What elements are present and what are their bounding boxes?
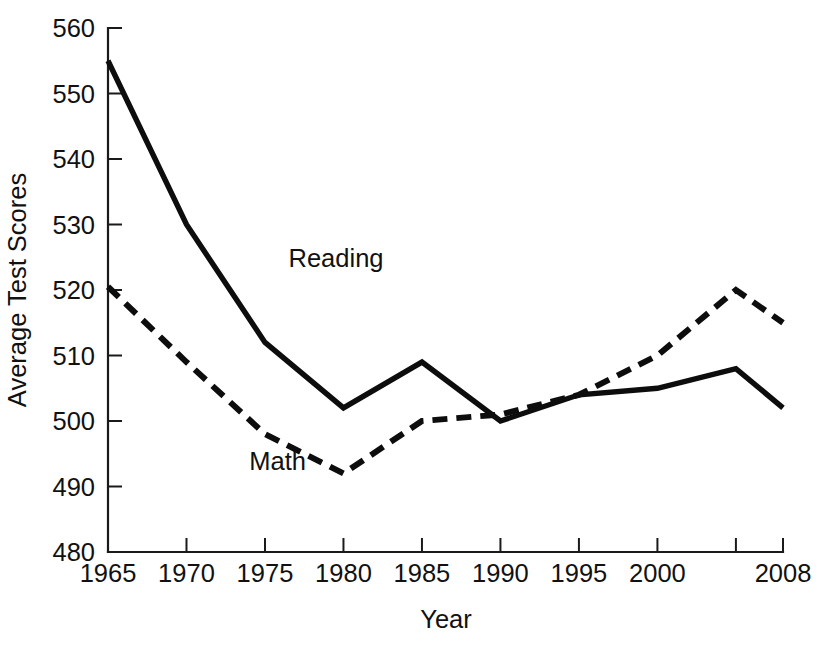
series-annotations: ReadingMath	[249, 244, 383, 475]
y-axis-tick-labels: 480490500510520530540550560	[52, 14, 95, 566]
x-tick-label: 1990	[472, 559, 529, 587]
x-axis-ticks	[108, 538, 783, 552]
x-axis-title: Year	[420, 605, 472, 633]
line-chart: 480490500510520530540550560 Average Test…	[0, 0, 822, 645]
x-axis-tick-labels: 196519701975198019851990199520002008	[80, 559, 812, 587]
series-label-reading: Reading	[289, 244, 384, 272]
y-tick-label: 510	[52, 342, 95, 370]
x-tick-label: 1985	[394, 559, 451, 587]
series-line-reading	[108, 61, 783, 421]
x-tick-label: 2000	[629, 559, 686, 587]
y-tick-label: 560	[52, 14, 95, 42]
y-axis-title: Average Test Scores	[3, 173, 31, 407]
chart-container: 480490500510520530540550560 Average Test…	[0, 0, 822, 645]
series-label-math: Math	[249, 447, 306, 475]
y-axis: 480490500510520530540550560 Average Test…	[3, 14, 122, 566]
y-tick-label: 530	[52, 211, 95, 239]
y-tick-label: 540	[52, 145, 95, 173]
x-tick-label: 1980	[315, 559, 372, 587]
x-tick-label: 2008	[755, 559, 812, 587]
y-tick-label: 500	[52, 407, 95, 435]
x-tick-label: 1965	[80, 559, 137, 587]
y-tick-label: 520	[52, 276, 95, 304]
x-tick-label: 1970	[158, 559, 215, 587]
x-tick-label: 1975	[237, 559, 294, 587]
x-axis: 196519701975198019851990199520002008 Yea…	[80, 538, 812, 633]
y-tick-label: 490	[52, 473, 95, 501]
data-series-layer	[108, 61, 783, 474]
y-tick-label: 550	[52, 80, 95, 108]
x-tick-label: 1995	[551, 559, 608, 587]
